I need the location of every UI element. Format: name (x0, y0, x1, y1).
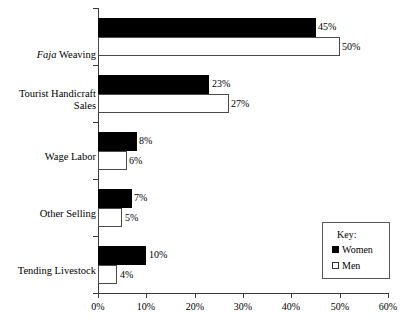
x-axis-tick (243, 293, 244, 298)
x-axis-tick-label-60: 60% (368, 301, 405, 312)
bar-women-tending-livestock (98, 246, 146, 265)
x-axis-tick-label-20: 20% (175, 301, 215, 312)
x-axis-tick-label-30: 30% (223, 301, 263, 312)
bar-value-men-other-selling: 5% (125, 213, 138, 223)
x-axis-tick-label-10: 10% (126, 301, 166, 312)
bar-women-faja-weaving (98, 18, 316, 37)
legend: Key: Women Men (322, 222, 390, 279)
bar-value-men-tending-livestock: 4% (120, 270, 133, 280)
category-label-faja-weaving: Faja Weaving (0, 37, 96, 61)
category-label-text: Weaving (57, 49, 97, 60)
bar-men-tourist-handicraft-sales (98, 94, 229, 113)
x-axis-tick (291, 293, 292, 298)
category-label-tourist-handicraft-sales: Tourist Handicraft Sales (0, 88, 96, 112)
bar-men-other-selling (98, 208, 122, 227)
category-label-tending-livestock: Tending Livestock (0, 265, 96, 277)
category-label-italic-part: Faja (37, 49, 57, 60)
bar-men-wage-labor (98, 151, 127, 170)
x-axis-tick (195, 293, 196, 298)
x-axis-tick (388, 293, 389, 298)
bar-value-women-wage-labor: 8% (139, 136, 152, 146)
x-axis-tick (340, 293, 341, 298)
bar-value-women-tending-livestock: 10% (149, 250, 167, 260)
category-label-other-selling: Other Selling (0, 208, 96, 220)
x-axis-tick-label-40: 40% (271, 301, 311, 312)
bar-women-other-selling (98, 189, 132, 208)
legend-entry-men: Men (332, 258, 389, 273)
hollow-square-icon (332, 262, 339, 269)
legend-label-women: Women (342, 242, 373, 257)
bar-men-tending-livestock (98, 265, 117, 284)
x-axis-tick (98, 293, 99, 298)
x-axis-tick-label-0: 0% (78, 301, 118, 312)
category-label-wage-labor: Wage Labor (0, 151, 96, 163)
bar-men-faja-weaving (98, 37, 340, 56)
filled-square-icon (332, 246, 339, 253)
bar-value-men-faja-weaving: 50% (342, 42, 360, 52)
bar-chart: Faja Weaving Tourist Handicraft Sales Wa… (0, 0, 405, 325)
legend-entry-women: Women (332, 242, 389, 257)
bar-women-tourist-handicraft-sales (98, 75, 209, 94)
bar-value-women-faja-weaving: 45% (318, 22, 336, 32)
bar-value-women-other-selling: 7% (134, 193, 147, 203)
bar-women-wage-labor (98, 132, 137, 151)
bar-value-men-tourist-handicraft-sales: 27% (231, 99, 249, 109)
legend-title: Key: (337, 228, 389, 241)
bar-value-women-tourist-handicraft-sales: 23% (212, 79, 230, 89)
x-axis-tick-label-50: 50% (320, 301, 360, 312)
bar-value-men-wage-labor: 6% (129, 156, 142, 166)
legend-label-men: Men (342, 258, 360, 273)
x-axis-tick (146, 293, 147, 298)
